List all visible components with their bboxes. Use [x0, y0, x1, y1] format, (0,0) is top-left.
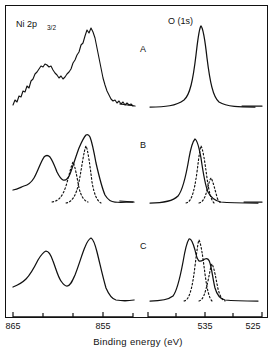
- panel-letter-c: C: [140, 241, 147, 251]
- panel-b-baseline-marks: [120, 201, 262, 202]
- x-axis-left: 865 855: [5, 312, 133, 331]
- x-tick-label-535: 535: [197, 321, 212, 331]
- header-ni-label: Ni 2p: [16, 19, 37, 29]
- column-header-ni: Ni 2p 3/2: [16, 19, 56, 31]
- panel-b-ni-component-2: [66, 146, 101, 203]
- panel-c-o1s-spectrum: [150, 239, 258, 301]
- panel-b-o1s-envelope: [150, 139, 258, 203]
- panel-b-ni-spectrum: [13, 135, 133, 203]
- header-ni-subscript: 3/2: [47, 24, 56, 31]
- x-tick-label-865: 865: [5, 321, 20, 331]
- xps-figure: Ni 2p 3/2 O (1s) A B C: [0, 0, 276, 351]
- x-axis-title: Binding energy (eV): [93, 336, 183, 347]
- panel-c-ni-spectrum: [13, 238, 134, 301]
- panel-c-ni-envelope: [13, 238, 134, 301]
- panel-a-ni-spectrum: [13, 28, 133, 106]
- spectra-canvas: Ni 2p 3/2 O (1s) A B C: [0, 0, 276, 351]
- panel-a-ni-envelope: [13, 28, 133, 106]
- x-tick-label-855: 855: [95, 321, 110, 331]
- panel-letter-a: A: [140, 44, 146, 54]
- panel-a-o1s-spectrum: [150, 26, 255, 107]
- x-tick-label-525: 525: [245, 321, 260, 331]
- panel-a-o1s-envelope: [150, 26, 255, 107]
- panel-c-o1s-component-1: [184, 240, 212, 301]
- panel-b-ni-component-1: [52, 162, 88, 202]
- panel-a-baseline-marks: [120, 104, 262, 106]
- column-header-o1s: O (1s): [168, 16, 193, 26]
- panel-b-ni-envelope: [13, 135, 133, 203]
- panel-b-o1s-component-2: [199, 178, 222, 203]
- x-axis-right: 535 525: [148, 312, 262, 331]
- panel-letter-b: B: [140, 140, 146, 150]
- panel-b-o1s-spectrum: [150, 139, 258, 203]
